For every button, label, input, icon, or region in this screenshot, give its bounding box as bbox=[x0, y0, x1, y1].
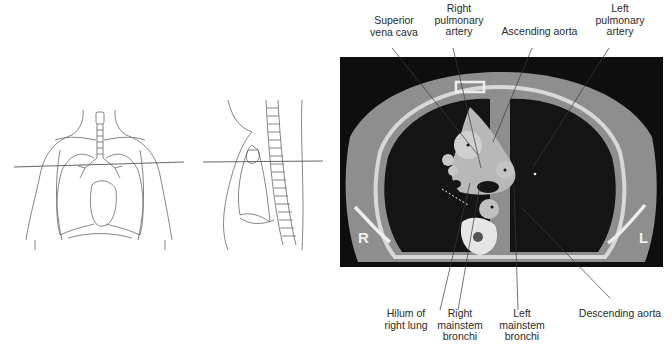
frontal-plane-line bbox=[14, 162, 184, 167]
left-side-marker: L bbox=[639, 229, 648, 246]
label-descending-aorta: Descending aorta bbox=[572, 308, 668, 320]
label-ascending-aorta: Ascending aorta bbox=[497, 26, 582, 38]
thorax-line-drawings bbox=[0, 0, 340, 349]
label-superior-vena-cava: Superior vena cava bbox=[364, 15, 424, 38]
label-hilum-of-right-lung: Hilum of right lung bbox=[376, 308, 436, 331]
ct-scan-rendering bbox=[340, 57, 663, 267]
label-right-mainstem-bronchi: Right mainstem bronchi bbox=[432, 308, 488, 343]
lateral-thorax-drawing bbox=[224, 100, 303, 250]
label-right-pulmonary-artery: Right pulmonary artery bbox=[424, 3, 494, 38]
frontal-thorax-drawing bbox=[26, 110, 172, 250]
ct-scan-image: R L bbox=[340, 57, 663, 267]
lateral-plane-line bbox=[203, 161, 323, 162]
label-left-mainstem-bronchi: Left mainstem bronchi bbox=[494, 308, 550, 343]
right-side-marker: R bbox=[358, 229, 369, 246]
label-left-pulmonary-artery: Left pulmonary artery bbox=[585, 3, 655, 38]
